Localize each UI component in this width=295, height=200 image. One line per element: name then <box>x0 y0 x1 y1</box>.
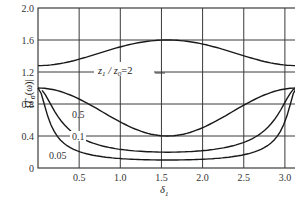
annotation-ratio-0.05: 0.05 <box>49 150 67 161</box>
x-tick-label: 3.0 <box>279 172 292 183</box>
plot-frame <box>38 8 295 168</box>
x-tick-label: 1.0 <box>114 172 127 183</box>
annotation-ratio-0.5: 0.5 <box>72 109 85 120</box>
y-tick-label: 0 <box>29 163 34 174</box>
series-line-z1-z0-2 <box>38 40 295 66</box>
y-tick-label: 2.0 <box>22 3 35 14</box>
x-tick-label: 2.5 <box>238 172 251 183</box>
y-tick-label: 1.2 <box>22 67 35 78</box>
y-tick-label: 0.4 <box>22 131 35 142</box>
curves <box>38 40 295 160</box>
x-tick-label: 2.0 <box>196 172 209 183</box>
grid <box>38 8 295 168</box>
x-tick-label: 0.5 <box>73 172 86 183</box>
y-tick-label: 1.6 <box>22 35 35 46</box>
x-axis-label: δ1 <box>160 184 168 198</box>
y-axis-label: |Tσ(ω)| <box>23 79 37 108</box>
x-tick-label: 1.5 <box>155 172 168 183</box>
chart: 0.51.01.52.02.53.000.40.81.21.62.0 |Tσ(ω… <box>0 0 295 200</box>
annotation-ratio-0.1: 0.1 <box>72 131 85 142</box>
